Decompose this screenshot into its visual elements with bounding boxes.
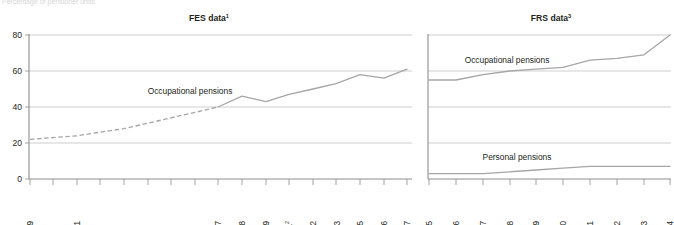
- clipped-caption-fragment: Percentage of pensioner units: [2, 0, 96, 6]
- y-tick-label-80: 80: [12, 30, 22, 40]
- x-tick-label-1992: 1992: [309, 221, 318, 225]
- clipped-caption-text: Percentage of pensioner units: [2, 0, 96, 6]
- panel-frs: FRS data3: [425, 13, 674, 225]
- x-tick-label-1995-96: 1995/96: [452, 221, 461, 225]
- pension-income-sources-chart: Percentage of pensioner units FES data1 …: [0, 0, 674, 225]
- x-tick-label-1997-98: 1997/98: [506, 221, 515, 225]
- series-line-personal-pensions: [429, 166, 670, 173]
- x-tick-label-1981: 1981: [73, 221, 82, 225]
- panel-fes: FES data1 80 60 40 20 0: [12, 13, 412, 225]
- x-tick-label-1998-99: 1998/99: [532, 221, 541, 225]
- panel-fes-title-superscript: 1: [226, 13, 229, 19]
- panel-frs-x-tickmarks: [429, 179, 670, 185]
- x-tick-label-1979: 1979: [26, 221, 35, 225]
- series-annotation-personal-pensions: Personal pensions: [483, 152, 552, 162]
- x-tick-label-1994-95: 1994/95: [356, 221, 365, 225]
- panel-fes-x-axis: 1979 1981 1987 1988 1989 1990-912 1992 1…: [26, 179, 412, 225]
- panel-fes-y-axis: 80 60 40 20 0: [12, 30, 29, 184]
- x-tick-label-1990-91-superscript: 2: [284, 221, 290, 224]
- series-annotation-occupational-pensions: Occupational pensions: [465, 55, 550, 65]
- panel-frs-title: FRS data3: [531, 13, 571, 23]
- series-line-occupational-pensions: [218, 69, 407, 107]
- x-tick-label-1999-2000: 1999/2000: [559, 221, 568, 225]
- x-tick-label-1995-96: 1995/96: [380, 221, 389, 225]
- panel-frs-axes: 1994/95 1995/96 1996/97 1997/98 1998/99 …: [425, 34, 674, 225]
- x-tick-label-2001-02: 2001/02: [613, 221, 622, 225]
- series-annotation-occupational-pensions: Occupational pensions: [148, 86, 233, 96]
- y-tick-label-0: 0: [17, 174, 22, 184]
- x-tick-label-2000-01: 2000/01: [586, 221, 595, 225]
- x-tick-label-1990-91: 1990-912: [284, 221, 294, 225]
- panel-frs-gridlines: [428, 35, 671, 143]
- x-tick-label-1996-97: 1996/97: [403, 221, 412, 225]
- x-tick-label-1989: 1989: [262, 221, 271, 225]
- x-tick-label-2003-04: 2003/04: [666, 221, 674, 225]
- y-tick-label-40: 40: [12, 102, 22, 112]
- panel-frs-x-tick-labels: 1994/95 1995/96 1996/97 1997/98 1998/99 …: [425, 221, 674, 225]
- panel-fes-title: FES data1: [189, 13, 229, 23]
- panel-fes-series-occupational-pensions: [30, 69, 407, 139]
- series-line-occupational-pensions-estimated: [30, 107, 218, 139]
- x-tick-label-2002-03: 2002/03: [640, 221, 649, 225]
- panel-fes-x-tick-labels: 1979 1981 1987 1988 1989 1990-912 1992 1…: [26, 221, 412, 225]
- panel-frs-title-superscript: 3: [568, 13, 571, 19]
- x-tick-label-1988: 1988: [238, 221, 247, 225]
- y-tick-label-60: 60: [12, 66, 22, 76]
- x-tick-label-1987: 1987: [214, 221, 223, 225]
- x-tick-label-1996-97: 1996/97: [479, 221, 488, 225]
- panel-fes-x-tickmarks: [30, 179, 407, 185]
- y-tick-label-20: 20: [12, 138, 22, 148]
- x-tick-label-1993: 1993: [333, 221, 342, 225]
- x-tick-label-1994-95: 1994/95: [425, 221, 434, 225]
